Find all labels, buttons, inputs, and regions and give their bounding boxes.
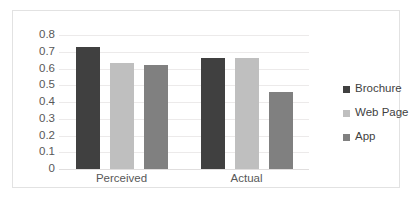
- y-axis-tick-label: 0.5: [39, 80, 55, 92]
- bar-app-actual: [269, 92, 293, 169]
- y-axis-tick-label: 0: [49, 163, 55, 175]
- legend-label: Brochure: [355, 83, 402, 95]
- legend-swatch-icon: [343, 134, 350, 141]
- y-axis-tick-label: 0.8: [39, 29, 55, 41]
- bar-app-perceived: [144, 65, 168, 169]
- bar-web-page-perceived: [110, 63, 134, 169]
- legend-swatch-icon: [343, 86, 350, 93]
- bar-brochure-perceived: [76, 47, 100, 169]
- y-axis-tick-label: 0.7: [39, 46, 55, 58]
- bar-chart: 0.80.70.60.50.40.30.20.10 PerceivedActua…: [0, 0, 417, 201]
- category-axis: PerceivedActual: [59, 173, 309, 193]
- legend-item: Web Page: [343, 101, 413, 125]
- legend-label: App: [355, 131, 375, 143]
- chart-frame: 0.80.70.60.50.40.30.20.10 PerceivedActua…: [12, 10, 400, 188]
- y-axis-tick-label: 0.3: [39, 113, 55, 125]
- axis-baseline: [59, 169, 309, 170]
- bars-layer: [59, 35, 309, 169]
- y-axis-tick-label: 0.4: [39, 96, 55, 108]
- category-label: Perceived: [96, 173, 147, 185]
- y-axis-tick-label: 0.2: [39, 130, 55, 142]
- bar-brochure-actual: [201, 58, 225, 169]
- y-axis: 0.80.70.60.50.40.30.20.10: [25, 35, 55, 169]
- y-axis-tick-label: 0.6: [39, 63, 55, 75]
- legend-item: App: [343, 125, 413, 149]
- plot-area: [59, 35, 309, 169]
- legend-label: Web Page: [355, 107, 409, 119]
- y-axis-tick-label: 0.1: [39, 147, 55, 159]
- bar-web-page-actual: [235, 58, 259, 169]
- category-label: Actual: [231, 173, 263, 185]
- legend-item: Brochure: [343, 77, 413, 101]
- legend-swatch-icon: [343, 110, 350, 117]
- chart-legend: BrochureWeb PageApp: [343, 77, 413, 149]
